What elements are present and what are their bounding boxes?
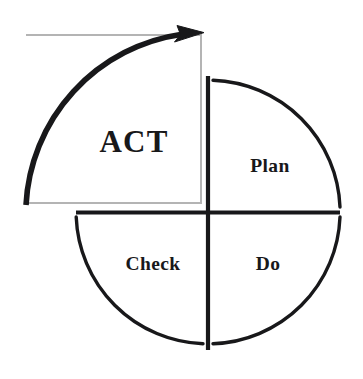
quadrant-label-do: Do (256, 253, 281, 275)
quadrant-label-check: Check (125, 253, 180, 275)
do-quadrant-arc (213, 217, 340, 344)
plan-quadrant-arc (213, 80, 340, 207)
pdca-diagram: ACT Plan Do Check (0, 0, 363, 379)
act-cycle-arrow (26, 26, 204, 206)
quadrant-label-act: ACT (99, 124, 168, 160)
quadrant-label-plan: Plan (250, 155, 290, 177)
check-quadrant-arc (76, 217, 203, 344)
pdca-cycle-svg (0, 0, 363, 379)
act-cycle-arrow-shaft (26, 34, 182, 205)
